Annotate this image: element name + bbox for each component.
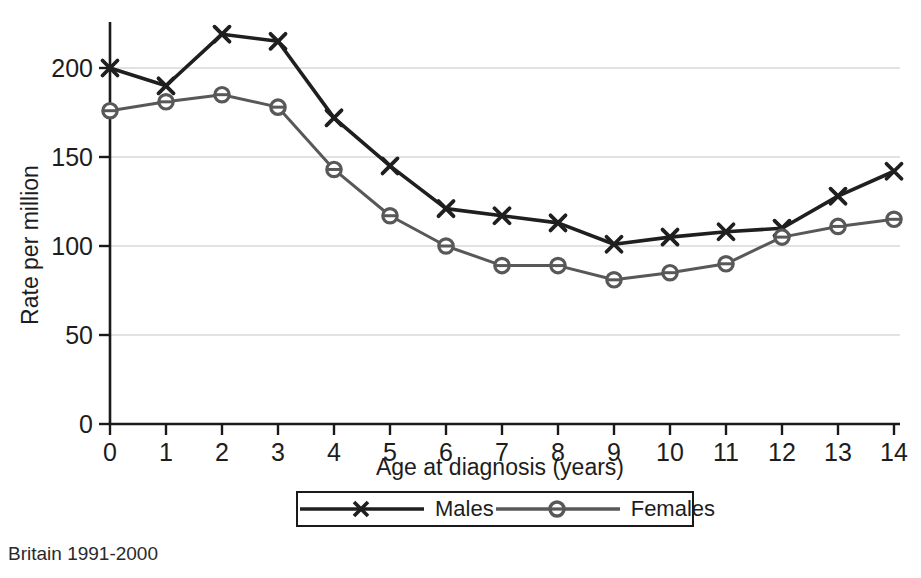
legend-entry-females: Females: [494, 496, 715, 522]
series-males: [103, 27, 902, 252]
y-axis-ticks-group: 050100150200: [51, 54, 110, 438]
data-point-marker: [383, 158, 398, 173]
x-axis-tick-label: 12: [768, 438, 796, 466]
x-axis-title: Age at diagnosis (years): [376, 454, 624, 480]
x-axis-tick-label: 1: [159, 438, 173, 466]
series-line: [110, 95, 894, 280]
gridlines-group: [110, 68, 900, 335]
x-axis-tick-label: 14: [880, 438, 908, 466]
x-axis-tick-label: 10: [656, 438, 684, 466]
y-axis-tick-label: 150: [51, 143, 93, 171]
legend-label-males: Males: [435, 496, 494, 522]
series-females: [103, 88, 901, 288]
x-axis-tick-label: 11: [713, 438, 739, 466]
y-axis-tick-label: 100: [51, 232, 93, 260]
x-marker-icon: [298, 498, 426, 520]
chart-figure: 050100150200 01234567891011121314 Rate p…: [0, 0, 921, 578]
x-axis-tick-label: 3: [271, 438, 285, 466]
series-line: [110, 34, 894, 244]
axes-group: [110, 22, 900, 424]
x-axis-tick-label: 13: [824, 438, 852, 466]
x-axis-tick-label: 0: [103, 438, 117, 466]
chart-legend: Males Females: [296, 491, 694, 527]
legend-label-females: Females: [631, 496, 715, 522]
y-axis-tick-label: 50: [65, 321, 93, 349]
data-point-marker: [887, 164, 902, 179]
y-axis-tick-label: 200: [51, 54, 93, 82]
legend-entry-males: Males: [298, 496, 494, 522]
y-axis-tick-label: 0: [79, 410, 93, 438]
x-axis-tick-label: 4: [327, 438, 341, 466]
x-axis-tick-label: 2: [215, 438, 229, 466]
data-point-marker: [327, 110, 342, 125]
line-chart-plot: 050100150200 01234567891011121314 Rate p…: [0, 0, 921, 540]
figure-caption: Britain 1991-2000: [8, 543, 158, 565]
data-point-marker: [831, 189, 846, 204]
circle-marker-icon: [494, 498, 622, 520]
y-axis-title: Rate per million: [17, 165, 43, 325]
